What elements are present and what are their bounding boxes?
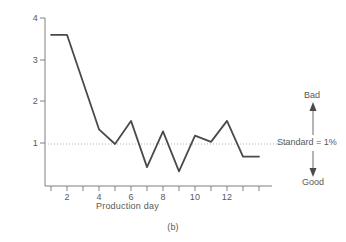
y-tick-label-3: 3 — [24, 55, 38, 65]
figure-caption: (b) — [0, 222, 346, 232]
annotation-bad: Bad — [304, 90, 320, 100]
defective-parts-chart-figure: 1 2 3 4 2 4 6 8 10 12 Defective parts (%… — [0, 0, 346, 242]
x-axis-title: Production day — [96, 201, 159, 211]
good-direction-arrow — [310, 151, 317, 177]
chart-plot-area — [0, 0, 346, 242]
bad-direction-arrow — [310, 102, 317, 135]
y-tick-label-1: 1 — [24, 138, 38, 148]
annotation-standard: Standard = 1% — [277, 137, 337, 147]
x-tick-label-12: 12 — [219, 192, 235, 202]
y-tick-label-2: 2 — [24, 96, 38, 106]
y-tick-label-4: 4 — [24, 13, 38, 23]
x-tick-label-2: 2 — [59, 192, 75, 202]
defective-parts-line — [51, 35, 259, 172]
x-tick-marks — [51, 186, 259, 191]
x-tick-label-10: 10 — [187, 192, 203, 202]
annotation-good: Good — [302, 177, 324, 187]
